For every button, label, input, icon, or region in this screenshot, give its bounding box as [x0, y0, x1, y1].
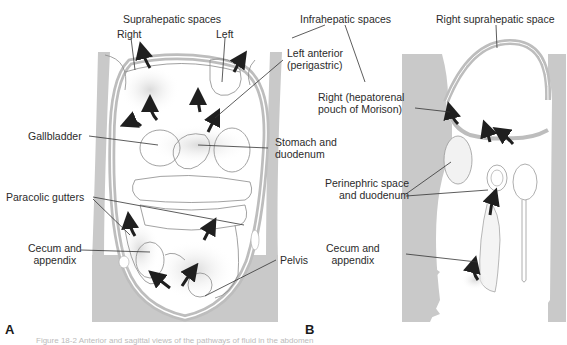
- label-paracolic-gutters: Paracolic gutters: [6, 191, 84, 203]
- panel-b-sagittal-view: [402, 42, 566, 322]
- label-pelvis: Pelvis: [280, 254, 308, 266]
- label-right-suprahepatic-space: Right suprahepatic space: [436, 13, 555, 25]
- label-perinephric-line1: Perinephric space: [325, 177, 409, 189]
- label-stomach-duodenum: Stomach and duodenum: [275, 136, 337, 160]
- label-left: Left: [216, 28, 234, 40]
- panel-letter-b: B: [305, 322, 314, 337]
- label-hepatorenal-line2: pouch of Morison): [318, 103, 404, 115]
- label-gallbladder: Gallbladder: [28, 130, 82, 142]
- label-left-anterior-line1: Left anterior: [287, 47, 343, 59]
- figure-caption: Figure 18-2 Anterior and sagittal views …: [36, 336, 314, 345]
- label-stomach-line1: Stomach and: [275, 136, 337, 148]
- panel-letter-a: A: [5, 322, 14, 337]
- label-infrahepatic-spaces: Infrahepatic spaces: [300, 13, 391, 25]
- label-cecum-a-line1: Cecum and: [28, 242, 82, 254]
- label-right: Right: [117, 28, 142, 40]
- label-cecum-b-line1: Cecum and: [326, 242, 380, 254]
- label-left-anterior: Left anterior (perigastric): [287, 47, 343, 71]
- label-cecum-b-line2: appendix: [326, 254, 380, 266]
- label-perinephric-space: Perinephric space and duodenum: [325, 177, 409, 201]
- label-cecum-appendix-b: Cecum and appendix: [326, 242, 380, 266]
- label-hepatorenal-line1: Right (hepatorenal: [318, 91, 404, 103]
- label-stomach-line2: duodenum: [275, 148, 337, 160]
- label-perinephric-line2: and duodenum: [325, 189, 409, 201]
- label-cecum-appendix-a: Cecum and appendix: [28, 242, 82, 266]
- label-left-anterior-line2: (perigastric): [287, 59, 343, 71]
- anatomy-illustration: [0, 0, 567, 345]
- label-suprahepatic-spaces: Suprahepatic spaces: [123, 13, 221, 25]
- label-right-hepatorenal: Right (hepatorenal pouch of Morison): [318, 91, 404, 115]
- panel-a-anterior-view: [92, 50, 282, 322]
- label-cecum-a-line2: appendix: [28, 254, 82, 266]
